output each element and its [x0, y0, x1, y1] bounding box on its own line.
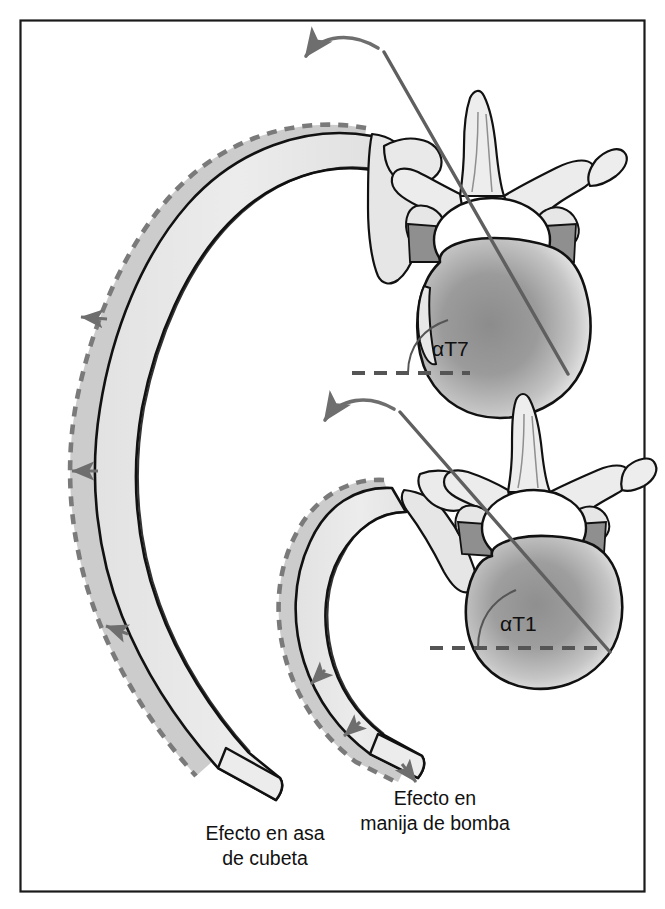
caption-pump-handle-line-1: Efecto en [394, 787, 476, 809]
rib-motion-diagram: αT7 [0, 0, 665, 909]
caption-bucket-handle-line-2: de cubeta [222, 847, 308, 869]
caption-bucket-handle-line-1: Efecto en asa [205, 822, 324, 844]
anatomy-figure-root: αT7 [0, 0, 665, 909]
caption-pump-handle-line-2: manija de bomba [360, 812, 510, 834]
angle-label-t1: αT1 [500, 612, 537, 635]
vertebral-body-t1 [466, 536, 622, 689]
angle-label-t7: αT7 [432, 337, 469, 360]
